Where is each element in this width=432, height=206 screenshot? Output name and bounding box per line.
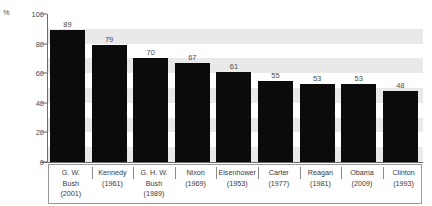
category-name-line: Bush: [50, 179, 92, 190]
category-label: Carter(1977): [258, 165, 300, 203]
bar: [300, 84, 335, 162]
category-name-line: Bush: [133, 179, 175, 190]
bar-value-label: 53: [341, 74, 376, 83]
category-separator: [216, 167, 217, 179]
bar: [133, 58, 168, 162]
category-label: Reagan(1981): [300, 165, 342, 203]
y-tick-label-40: 40: [14, 98, 44, 107]
y-tick-mark-80: [41, 43, 47, 44]
y-tick-mark-60: [41, 73, 47, 74]
y-tick-mark-100: [41, 14, 47, 15]
bar-value-label: 67: [175, 53, 210, 62]
bar: [216, 72, 251, 162]
bar: [92, 45, 127, 162]
bar: [341, 84, 376, 162]
category-separator: [92, 167, 93, 179]
category-label: Obama(2009): [341, 165, 383, 203]
category-year: (1981): [300, 179, 342, 190]
bar-value-label: 55: [258, 71, 293, 80]
category-label: G. W.Bush(2001): [50, 165, 92, 203]
category-name-line: Obama: [341, 168, 383, 179]
category-name-line: G. H. W.: [133, 168, 175, 179]
bar: [258, 81, 293, 162]
category-label-box: G. W.Bush(2001)Kennedy(1961)G. H. W.Bush…: [48, 164, 422, 204]
y-tick-label-20: 20: [14, 128, 44, 137]
y-tick-label-0: 0: [14, 158, 44, 167]
bar-value-label: 48: [383, 81, 418, 90]
category-year: (1969): [175, 179, 217, 190]
y-tick-mark-0: [41, 162, 47, 163]
category-name-line: Clinton: [383, 168, 425, 179]
category-year: (1977): [258, 179, 300, 190]
category-year: (1993): [383, 179, 425, 190]
category-year: (2001): [50, 189, 92, 200]
y-tick-label-80: 80: [14, 39, 44, 48]
category-separator: [341, 167, 342, 179]
category-year: (1989): [133, 189, 175, 200]
y-tick-label-100: 100: [14, 10, 44, 19]
category-separator: [383, 167, 384, 179]
bar-value-label: 61: [216, 62, 251, 71]
category-name-line: G. W.: [50, 168, 92, 179]
category-label: Clinton(1993): [383, 165, 425, 203]
category-year: (2009): [341, 179, 383, 190]
category-name-line: Carter: [258, 168, 300, 179]
bar-value-label: 70: [133, 48, 168, 57]
bar: [50, 30, 85, 162]
y-tick-label-60: 60: [14, 69, 44, 78]
category-name-line: Eisenhower: [216, 168, 258, 179]
category-separator: [300, 167, 301, 179]
category-separator: [175, 167, 176, 179]
bar-chart: % 020406080100 897970676155535348 G. W.B…: [0, 0, 432, 206]
category-label: Nixon(1969): [175, 165, 217, 203]
category-name-line: Reagan: [300, 168, 342, 179]
category-name-line: Kennedy: [92, 168, 134, 179]
x-axis-line: [41, 162, 423, 163]
bar: [383, 91, 418, 162]
bar-value-label: 79: [92, 35, 127, 44]
category-label: Eisenhower(1953): [216, 165, 258, 203]
bar-value-label: 89: [50, 20, 85, 29]
category-separator: [258, 167, 259, 179]
category-label: Kennedy(1961): [92, 165, 134, 203]
category-year: (1953): [216, 179, 258, 190]
bar-value-label: 53: [300, 74, 335, 83]
category-name-line: Nixon: [175, 168, 217, 179]
bar: [175, 63, 210, 162]
category-year: (1961): [92, 179, 134, 190]
y-tick-mark-40: [41, 102, 47, 103]
y-axis-unit-label: %: [3, 8, 10, 17]
category-label: G. H. W.Bush(1989): [133, 165, 175, 203]
y-tick-mark-20: [41, 132, 47, 133]
category-separator: [133, 167, 134, 179]
plot-area: 897970676155535348: [48, 14, 423, 162]
